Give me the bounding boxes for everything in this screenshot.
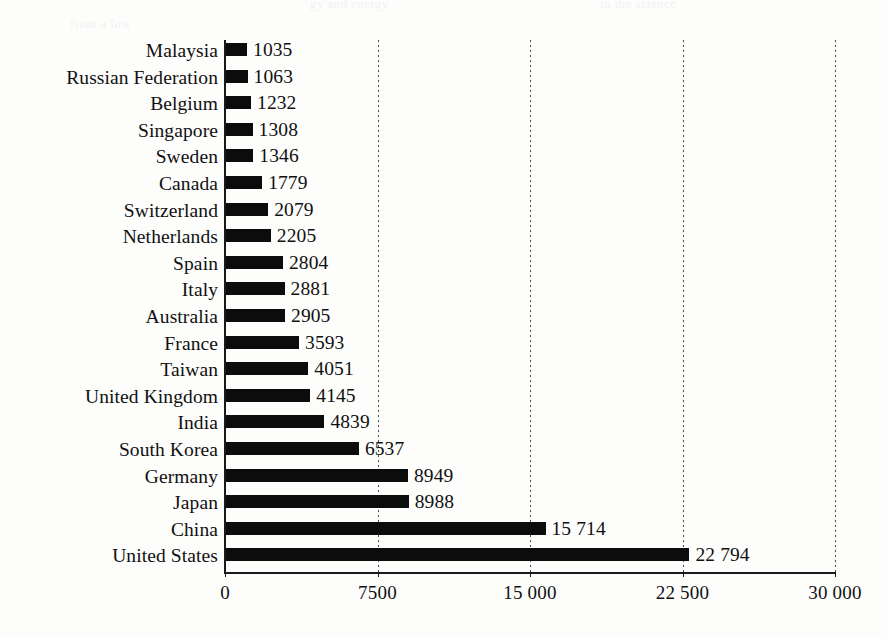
- category-label-india: India: [177, 412, 218, 433]
- category-label-france: France: [164, 333, 218, 354]
- bar-united-states: [226, 548, 689, 561]
- value-label-germany: 8949: [414, 465, 453, 486]
- x-tick-label-30000: 30 000: [808, 582, 861, 604]
- category-label-japan: Japan: [173, 492, 218, 513]
- category-label-switzerland: Switzerland: [124, 200, 218, 221]
- bar-row: China15 714: [0, 519, 887, 546]
- category-label-belgium: Belgium: [150, 93, 218, 114]
- x-tick-0: [225, 572, 226, 577]
- category-label-italy: Italy: [182, 279, 218, 300]
- category-label-united-states: United States: [112, 545, 218, 566]
- category-label-germany: Germany: [145, 466, 218, 487]
- value-label-netherlands: 2205: [277, 225, 316, 246]
- chart-page: gy and energy in the science from a low …: [0, 0, 887, 638]
- bar-singapore: [226, 123, 253, 136]
- bar-spain: [226, 256, 283, 269]
- value-label-canada: 1779: [268, 172, 307, 193]
- category-label-malaysia: Malaysia: [146, 40, 218, 61]
- bar-australia: [226, 309, 285, 322]
- value-label-italy: 2881: [291, 278, 330, 299]
- bar-germany: [226, 469, 408, 482]
- value-label-united-states: 22 794: [695, 544, 749, 565]
- bar-row: Singapore1308: [0, 120, 887, 147]
- value-label-sweden: 1346: [259, 145, 298, 166]
- category-label-sweden: Sweden: [156, 146, 218, 167]
- bar-row: Canada1779: [0, 173, 887, 200]
- bar-row: South Korea6537: [0, 439, 887, 466]
- x-tick-label-22500: 22 500: [656, 582, 709, 604]
- category-label-china: China: [171, 519, 218, 540]
- value-label-australia: 2905: [291, 305, 330, 326]
- value-label-france: 3593: [305, 332, 344, 353]
- bar-netherlands: [226, 229, 271, 242]
- bar-italy: [226, 282, 285, 295]
- bar-row: Belgium1232: [0, 93, 887, 120]
- value-label-china: 15 714: [552, 518, 606, 539]
- bar-chart-plot-area: 0750015 00022 50030 000 Malaysia1035Russ…: [0, 0, 887, 638]
- bar-row: United States22 794: [0, 545, 887, 572]
- bar-row: Sweden1346: [0, 146, 887, 173]
- value-label-switzerland: 2079: [274, 199, 313, 220]
- category-label-taiwan: Taiwan: [160, 359, 218, 380]
- category-label-singapore: Singapore: [138, 120, 218, 141]
- value-label-taiwan: 4051: [314, 358, 353, 379]
- bar-row: Russian Federation1063: [0, 67, 887, 94]
- category-label-south-korea: South Korea: [119, 439, 218, 460]
- x-tick-7500: [378, 572, 379, 577]
- x-tick-label-7500: 7500: [358, 582, 397, 604]
- value-label-russian-federation: 1063: [254, 66, 293, 87]
- bar-row: Taiwan4051: [0, 359, 887, 386]
- bar-china: [226, 522, 546, 535]
- bar-row: Spain2804: [0, 253, 887, 280]
- bar-row: Netherlands2205: [0, 226, 887, 253]
- x-tick-15000: [530, 572, 531, 577]
- x-tick-label-15000: 15 000: [503, 582, 556, 604]
- value-label-japan: 8988: [415, 491, 454, 512]
- category-label-canada: Canada: [159, 173, 218, 194]
- x-tick-22500: [683, 572, 684, 577]
- x-tick-30000: [835, 572, 836, 577]
- bar-sweden: [226, 149, 253, 162]
- category-label-spain: Spain: [173, 253, 218, 274]
- value-label-south-korea: 6537: [365, 438, 404, 459]
- bar-row: Malaysia1035: [0, 40, 887, 67]
- bar-row: Australia2905: [0, 306, 887, 333]
- bar-row: Japan8988: [0, 492, 887, 519]
- value-label-singapore: 1308: [259, 119, 298, 140]
- bar-france: [226, 336, 299, 349]
- category-label-australia: Australia: [146, 306, 218, 327]
- bar-row: United Kingdom4145: [0, 386, 887, 413]
- bar-switzerland: [226, 203, 268, 216]
- value-label-spain: 2804: [289, 252, 328, 273]
- bar-row: India4839: [0, 412, 887, 439]
- bar-japan: [226, 495, 409, 508]
- category-label-russian-federation: Russian Federation: [66, 67, 218, 88]
- bar-row: Germany8949: [0, 466, 887, 493]
- bar-belgium: [226, 96, 251, 109]
- category-label-netherlands: Netherlands: [123, 226, 218, 247]
- value-label-malaysia: 1035: [253, 39, 292, 60]
- bar-row: Switzerland2079: [0, 200, 887, 227]
- value-label-belgium: 1232: [257, 92, 296, 113]
- x-tick-label-0: 0: [220, 582, 230, 604]
- category-label-united-kingdom: United Kingdom: [85, 386, 218, 407]
- bar-russian-federation: [226, 70, 248, 83]
- value-label-united-kingdom: 4145: [316, 385, 355, 406]
- bar-malaysia: [226, 43, 247, 56]
- bar-taiwan: [226, 362, 308, 375]
- bar-united-kingdom: [226, 389, 310, 402]
- bar-india: [226, 415, 324, 428]
- bar-canada: [226, 176, 262, 189]
- bar-row: France3593: [0, 333, 887, 360]
- bar-row: Italy2881: [0, 279, 887, 306]
- value-label-india: 4839: [330, 411, 369, 432]
- bar-south-korea: [226, 442, 359, 455]
